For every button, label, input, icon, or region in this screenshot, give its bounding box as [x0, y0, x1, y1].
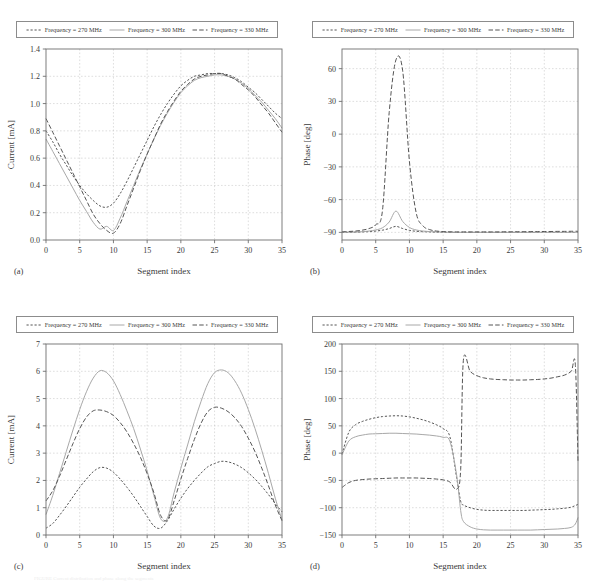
x-tick-label: 20: [177, 246, 185, 255]
y-tick-label: 1: [36, 504, 40, 513]
y-axis-label: Current [mA]: [6, 120, 16, 169]
x-tick-label: 35: [278, 541, 286, 550]
x-tick-label: 20: [177, 541, 185, 550]
x-tick-label: 10: [109, 246, 117, 255]
x-tick-label: 25: [507, 541, 515, 550]
y-tick-label: 1.0: [30, 100, 40, 109]
series-group: [342, 56, 578, 233]
gridlines: [342, 49, 578, 240]
x-tick-label: 35: [278, 246, 286, 255]
series-line: [46, 407, 282, 521]
x-tick-label: 0: [44, 246, 48, 255]
series-group: [46, 370, 282, 529]
x-tick-label: 15: [143, 541, 151, 550]
x-tick-label: 30: [540, 541, 548, 550]
y-tick-label: 5: [36, 395, 40, 404]
y-tick-label: 50: [328, 422, 336, 431]
y-tick-label: 0.0: [30, 236, 40, 245]
subplot-caption: (d): [310, 561, 320, 571]
x-tick-label: 15: [439, 246, 447, 255]
subplot-caption: (c): [14, 561, 24, 571]
axis-ticks: 0510152025303501234567: [36, 340, 286, 550]
y-tick-label: 200: [324, 340, 336, 349]
x-tick-label: 10: [405, 541, 413, 550]
y-axis-label: Phase [deg]: [302, 418, 312, 460]
x-tick-label: 0: [340, 246, 344, 255]
y-tick-label: 0.4: [30, 181, 40, 190]
y-tick-label: 7: [36, 340, 40, 349]
y-tick-label: 30: [328, 97, 336, 106]
series-line: [46, 73, 282, 207]
y-axis-label: Current [mA]: [6, 415, 16, 464]
y-tick-label: 0: [332, 130, 336, 139]
figure-bottom-caption: FIGURE Current distribution and phase al…: [34, 576, 574, 581]
y-tick-label: −30: [323, 163, 336, 172]
series-line: [342, 416, 578, 511]
series-line: [342, 355, 578, 490]
figure-container: Frequency = 270 MHzFrequency = 300 MHzFr…: [0, 0, 591, 586]
x-tick-label: 30: [244, 541, 252, 550]
gridlines: [46, 344, 282, 535]
y-tick-label: 0: [36, 531, 40, 540]
y-tick-label: −50: [323, 476, 336, 485]
x-tick-label: 0: [340, 541, 344, 550]
x-tick-label: 10: [405, 246, 413, 255]
series-line: [342, 56, 578, 232]
x-tick-label: 25: [211, 246, 219, 255]
y-tick-label: 150: [324, 367, 336, 376]
series-line: [46, 73, 282, 233]
x-tick-label: 5: [78, 246, 82, 255]
plot-frame: [46, 49, 282, 240]
series-line: [46, 370, 282, 521]
x-axis-label: Segment index: [137, 561, 191, 571]
plot-frame: [46, 344, 282, 535]
x-tick-label: 30: [540, 246, 548, 255]
x-axis-label: Segment index: [137, 266, 191, 276]
x-tick-label: 25: [211, 541, 219, 550]
x-tick-label: 5: [374, 246, 378, 255]
plot-b: 05101520253035−90−60−3003060Segment inde…: [296, 0, 591, 290]
panel-d: Frequency = 270 MHzFrequency = 300 MHzFr…: [296, 295, 591, 585]
series-group: [46, 73, 282, 233]
y-tick-label: 6: [36, 367, 40, 376]
x-tick-label: 25: [507, 246, 515, 255]
subplot-caption: (b): [310, 266, 320, 276]
y-tick-label: 1.4: [30, 45, 40, 54]
y-tick-label: 0.2: [30, 209, 40, 218]
gridlines: [46, 49, 282, 240]
x-tick-label: 10: [109, 541, 117, 550]
y-tick-label: −60: [323, 196, 336, 205]
plot-a: 051015202530350.00.20.40.60.81.01.21.4Se…: [0, 0, 295, 290]
y-tick-label: 2: [36, 476, 40, 485]
x-tick-label: 20: [473, 541, 481, 550]
plot-frame: [342, 49, 578, 240]
series-line: [46, 75, 282, 231]
panel-c: Frequency = 270 MHzFrequency = 300 MHzFr…: [0, 295, 295, 585]
x-tick-label: 15: [143, 246, 151, 255]
y-tick-label: −150: [319, 531, 336, 540]
y-tick-label: −90: [323, 228, 336, 237]
x-tick-label: 30: [244, 246, 252, 255]
y-tick-label: 0.6: [30, 154, 40, 163]
x-tick-label: 0: [44, 541, 48, 550]
x-tick-label: 5: [78, 541, 82, 550]
series-line: [46, 461, 282, 528]
series-group: [342, 355, 578, 530]
y-tick-label: 1.2: [30, 72, 40, 81]
x-axis-label: Segment index: [433, 266, 487, 276]
y-tick-label: 100: [324, 395, 336, 404]
x-tick-label: 5: [374, 541, 378, 550]
y-tick-label: 0: [332, 449, 336, 458]
y-tick-label: 60: [328, 65, 336, 74]
y-tick-label: −100: [319, 504, 336, 513]
x-tick-label: 35: [574, 541, 582, 550]
x-axis-label: Segment index: [433, 561, 487, 571]
x-tick-label: 35: [574, 246, 582, 255]
axis-ticks: 05101520253035−90−60−3003060: [323, 65, 582, 255]
y-tick-label: 3: [36, 449, 40, 458]
panel-a: Frequency = 270 MHzFrequency = 300 MHzFr…: [0, 0, 295, 290]
y-tick-label: 4: [36, 422, 40, 431]
plot-d: 05101520253035−150−100−50050100150200Seg…: [296, 295, 591, 585]
series-line: [342, 211, 578, 232]
y-axis-label: Phase [deg]: [302, 123, 312, 165]
